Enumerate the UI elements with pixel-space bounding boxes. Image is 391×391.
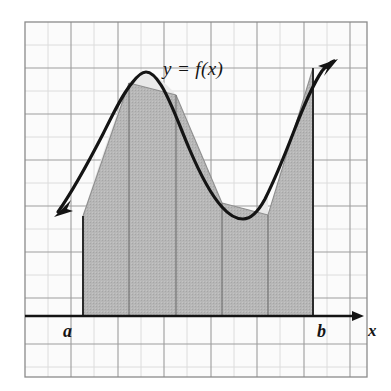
upper-limit-label: b <box>317 322 326 340</box>
x-axis-label: x <box>368 322 377 339</box>
lower-limit-label: a <box>63 322 72 340</box>
figure-root: y = f(x) a b x <box>0 0 391 391</box>
function-label: y = f(x) <box>163 59 223 78</box>
